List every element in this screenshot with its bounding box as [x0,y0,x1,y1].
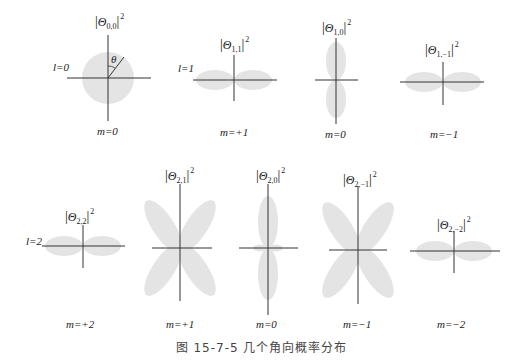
m-label-panel-7: m=−1 [343,318,371,330]
m-label-panel-4: m=+2 [66,318,94,330]
m-label-panel-6: m=0 [256,318,277,330]
m-label-panel-3: m=−1 [430,128,458,140]
panel-l2-m0 [239,184,298,315]
panel-title-theta-0-0: |Θ0,0|2 [95,12,124,31]
m-label-panel-5: m=+1 [166,318,194,330]
figure-caption: 图 15-7-5 几个角向概率分布 [0,338,523,355]
m-label-panel-2: m=0 [325,128,346,140]
panel-title-theta-1-1: |Θ1,1|2 [220,35,249,54]
l-label-0: l=0 [53,61,69,73]
m-label-panel-8: m=−2 [437,318,465,330]
panel-l2-mminus1 [315,186,400,304]
panel-l1-m0 [315,38,358,124]
panel-l2-m2 [42,225,125,268]
panel-l2-mminus2 [410,231,500,273]
panel-title-theta-1-0: |Θ1,0|2 [322,18,351,37]
panel-title-theta-1-minus1: |Θ1,−1|2 [425,40,459,59]
panel-title-theta-2-1: |Θ2,1|2 [165,166,194,185]
panel-l2-m1 [137,184,222,301]
l-label-2: l=2 [26,235,42,247]
panel-l1-m1 [193,55,277,101]
m-label-panel-1: m=+1 [220,126,248,138]
m-label-panel-0: m=0 [97,125,118,137]
panel-l1-mminus1 [400,62,484,105]
panel-title-theta-2-minus1: |Θ2,−1|2 [343,170,377,189]
panel-l0-m0 [67,35,151,121]
l-label-1: l=1 [178,62,194,74]
theta-label: θ [111,53,116,65]
panel-title-theta-2-minus2: |Θ2,−2|2 [437,215,471,234]
panel-title-theta-2-0: |Θ2,0|2 [256,166,285,185]
panel-title-theta-2-2: |Θ2,2|2 [65,207,94,226]
